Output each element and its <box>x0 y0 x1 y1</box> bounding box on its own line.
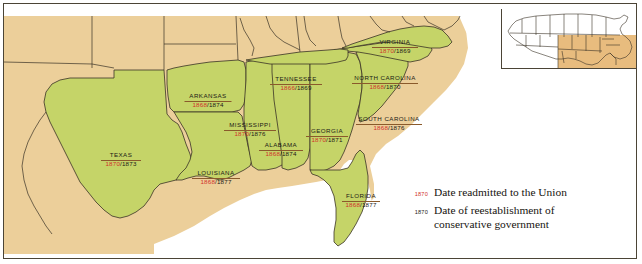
map-legend: 1870Date readmitted to the Union1870Date… <box>406 186 632 236</box>
conservative-government-date: 1874 <box>209 101 224 108</box>
readmission-date: 1870 <box>105 160 120 167</box>
conservative-government-date: 1873 <box>122 160 137 167</box>
readmission-date: 1868 <box>373 124 388 131</box>
readmission-date: 1868 <box>345 201 360 208</box>
map-frame: VIRGINIA1870/1869TENNESSEE1866/1869NORTH… <box>3 3 637 259</box>
conservative-government-date: 1869 <box>297 84 312 91</box>
state-name-text: MISSISSIPPI <box>224 122 276 129</box>
state-name-text: NORTH CAROLINA <box>352 75 418 82</box>
state-name-text: VIRGINIA <box>372 39 418 46</box>
legend-key-readmission: 1870 <box>406 186 434 197</box>
state-label-virginia[interactable]: VIRGINIA1870/1869 <box>372 39 418 55</box>
state-label-south-carolina[interactable]: SOUTH CAROLINA1868/1876 <box>356 116 422 132</box>
locator-inset-panel <box>501 9 637 69</box>
state-dates-text: 1868/1874 <box>259 151 303 158</box>
state-label-arkansas[interactable]: ARKANSAS1868/1874 <box>185 93 232 109</box>
state-label-mississippi[interactable]: MISSISSIPPI1870/1876 <box>224 122 276 138</box>
state-name-text: TENNESSEE <box>270 76 322 83</box>
legend-description: Date readmitted to the Union <box>434 186 567 199</box>
state-label-florida[interactable]: FLORIDA1868/1877 <box>342 193 380 209</box>
state-dates-text: 1870/1869 <box>372 48 418 55</box>
state-dates-text: 1870/1871 <box>306 137 348 144</box>
state-name-text: SOUTH CAROLINA <box>356 116 422 123</box>
map-figure: VIRGINIA1870/1869TENNESSEE1866/1869NORTH… <box>0 0 642 264</box>
legend-row: 1870Date of reestablishment ofconservati… <box>406 204 632 231</box>
state-label-north-carolina[interactable]: NORTH CAROLINA1868/1870 <box>352 75 418 91</box>
legend-description: Date of reestablishment ofconservative g… <box>434 204 555 231</box>
readmission-date: 1870 <box>379 47 394 54</box>
state-name-text: GEORGIA <box>306 128 348 135</box>
state-dates-text: 1868/1877 <box>342 202 380 209</box>
state-name-text: ALABAMA <box>259 142 303 149</box>
state-label-texas[interactable]: TEXAS1870/1873 <box>101 152 141 168</box>
state-label-alabama[interactable]: ALABAMA1868/1874 <box>259 142 303 158</box>
conservative-government-date: 1876 <box>390 124 405 131</box>
state-label-tennessee[interactable]: TENNESSEE1866/1869 <box>270 76 322 92</box>
conservative-government-date: 1870 <box>386 83 401 90</box>
state-dates-text: 1868/1874 <box>185 102 232 109</box>
conservative-government-date: 1871 <box>328 136 343 143</box>
state-dates-text: 1868/1877 <box>192 179 240 186</box>
state-name-text: FLORIDA <box>342 193 380 200</box>
conservative-government-date: 1877 <box>217 178 232 185</box>
conservative-government-date: 1869 <box>396 47 411 54</box>
state-name-text: ARKANSAS <box>185 93 232 100</box>
united-states-locator-map-icon <box>502 9 637 68</box>
conservative-government-date: 1876 <box>251 130 266 137</box>
conservative-government-date: 1877 <box>362 201 377 208</box>
readmission-date: 1866 <box>280 84 295 91</box>
state-name-text: LOUISIANA <box>192 170 240 177</box>
state-dates-text: 1868/1870 <box>352 84 418 91</box>
readmission-date: 1870 <box>311 136 326 143</box>
readmission-date: 1870 <box>234 130 249 137</box>
readmission-date: 1868 <box>369 83 384 90</box>
state-name-text: TEXAS <box>101 152 141 159</box>
state-dates-text: 1870/1876 <box>224 131 276 138</box>
state-dates-text: 1868/1876 <box>356 125 422 132</box>
state-dates-text: 1870/1873 <box>101 161 141 168</box>
legend-row: 1870Date readmitted to the Union <box>406 186 632 199</box>
conservative-government-date: 1874 <box>282 150 297 157</box>
state-label-louisiana[interactable]: LOUISIANA1868/1877 <box>192 170 240 186</box>
state-label-georgia[interactable]: GEORGIA1870/1871 <box>306 128 348 144</box>
state-dates-text: 1866/1869 <box>270 85 322 92</box>
readmission-date: 1868 <box>265 150 280 157</box>
readmission-date: 1868 <box>200 178 215 185</box>
legend-key-conservative: 1870 <box>406 204 434 215</box>
readmission-date: 1868 <box>192 101 207 108</box>
